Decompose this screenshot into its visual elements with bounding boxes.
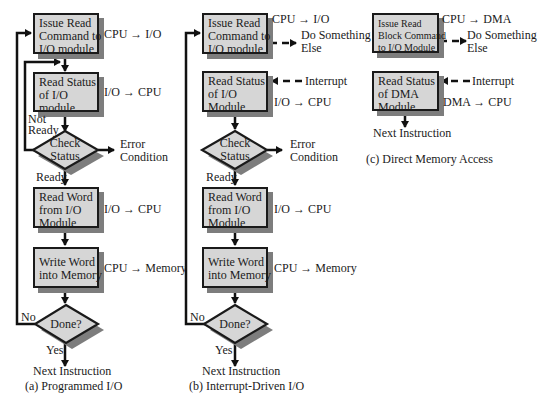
panel-a-check-status-text: Check Status	[40, 137, 90, 163]
panel-c-do-something-else: Do Something Else	[467, 29, 537, 55]
panel-a-caption: (a) Programmed I/O	[25, 379, 122, 394]
panel-c-flow-label-2: DMA → CPU	[443, 96, 512, 109]
box-text: Block Command	[378, 30, 433, 42]
error-text: Condition	[290, 150, 338, 164]
error-text: Error	[120, 137, 145, 151]
panel-b-read-status-box: Read Status of I/O Module	[202, 71, 268, 112]
do-something-text: Else	[301, 41, 322, 55]
panel-c-caption: (c) Direct Memory Access	[366, 152, 493, 167]
box-text: Module	[208, 217, 262, 230]
panel-b-flow-label-1: CPU → I/O	[272, 13, 329, 26]
panel-b-flow-label-2: I/O → CPU	[274, 96, 331, 109]
box-text: into Memory	[39, 269, 93, 282]
diamond-text: Status	[220, 149, 249, 163]
panel-c-issue-read-block-box: Issue Read Block Command to I/O Module	[372, 13, 439, 53]
panel-c-read-status-dma-box: Read Status of DMA Module	[372, 71, 439, 111]
panel-a-next-instruction: Next Instruction	[33, 365, 111, 378]
box-text: I/O module	[208, 43, 262, 56]
panel-b-do-something-else: Do Something Else	[301, 29, 371, 55]
not-ready-text: Ready	[28, 123, 59, 137]
diamond-text: Status	[50, 149, 79, 163]
do-something-text: Else	[467, 41, 488, 55]
panel-a-error-condition: Error Condition	[120, 138, 168, 164]
panel-a-flow-label-4: CPU → Memory	[104, 262, 187, 275]
do-something-text: Do Something	[301, 28, 371, 42]
diamond-text: Check	[220, 136, 251, 150]
diamond-text: Check	[50, 136, 81, 150]
panel-b-yes-label: Yes	[215, 344, 232, 357]
box-text: into Memory	[208, 269, 262, 282]
panel-a-not-ready-label: Not Ready	[28, 114, 59, 136]
panel-b-check-status-text: Check Status	[210, 137, 260, 163]
box-text: to I/O Module	[378, 42, 433, 54]
error-text: Error	[290, 137, 315, 151]
panel-a-yes-label: Yes	[46, 344, 63, 357]
panel-b-error-condition: Error Condition	[290, 138, 338, 164]
error-text: Condition	[120, 150, 168, 164]
panel-a-write-word-box: Write Word into Memory	[33, 247, 99, 288]
panel-a-read-word-box: Read Word from I/O Module	[33, 187, 99, 228]
panel-c-flow-label-1: CPU → DMA	[442, 13, 511, 26]
panel-c-next-instruction: Next Instruction	[373, 127, 451, 140]
panel-a-flow-label-1: CPU → I/O	[104, 28, 161, 41]
panel-a-issue-read-box: Issue Read Command to I/O module	[33, 13, 99, 54]
panel-b-interrupt-label: Interrupt	[305, 75, 347, 88]
panel-b-issue-read-box: Issue Read Command to I/O module	[202, 13, 268, 54]
panel-b-dashed-arrows	[270, 43, 302, 81]
panel-a-no-label: No	[21, 311, 36, 324]
box-text: Module	[208, 101, 262, 114]
box-text: Module	[378, 101, 433, 114]
panel-c-interrupt-label: Interrupt	[472, 75, 514, 88]
panel-a-done-text: Done?	[41, 318, 91, 331]
panel-b-flow-label-4: CPU → Memory	[274, 262, 357, 275]
do-something-text: Do Something	[467, 28, 537, 42]
panel-b-read-word-box: Read Word from I/O Module	[202, 187, 268, 228]
panel-a-flow-label-3: I/O → CPU	[104, 203, 161, 216]
panel-b-flow-label-3: I/O → CPU	[274, 203, 331, 216]
panel-b-write-word-box: Write Word into Memory	[202, 247, 268, 288]
panel-c-dashed-arrows	[440, 41, 470, 81]
box-text: Issue Read	[378, 18, 433, 30]
box-text: Module	[39, 217, 93, 230]
panel-b-caption: (b) Interrupt-Driven I/O	[189, 379, 304, 394]
panel-a-read-status-box: Read Status of I/O module	[33, 72, 99, 112]
panel-b-done-text: Done?	[210, 318, 260, 331]
panel-a-flow-label-2: I/O → CPU	[104, 86, 161, 99]
box-text: I/O module	[39, 43, 93, 56]
panel-b-no-label: No	[190, 311, 205, 324]
panel-a-ready-label: Ready	[36, 171, 67, 184]
panel-b-next-instruction: Next Instruction	[202, 365, 280, 378]
panel-b-ready-label: Ready	[206, 171, 237, 184]
